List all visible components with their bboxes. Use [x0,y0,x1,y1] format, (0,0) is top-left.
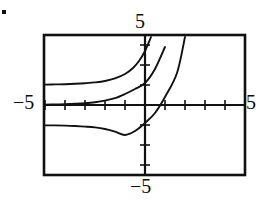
axis-label-right: 5 [246,92,256,112]
graph-figure: 5 −5 5 −5 [0,0,265,216]
axis-label-top: 5 [135,11,145,31]
curve-3 [45,37,185,135]
curve-1 [45,37,151,85]
curves-group [45,37,185,135]
curve-2 [45,47,165,105]
bullet-marker-icon [2,10,6,14]
axis-label-bottom: −5 [130,176,151,196]
axis-label-left: −5 [13,92,34,112]
